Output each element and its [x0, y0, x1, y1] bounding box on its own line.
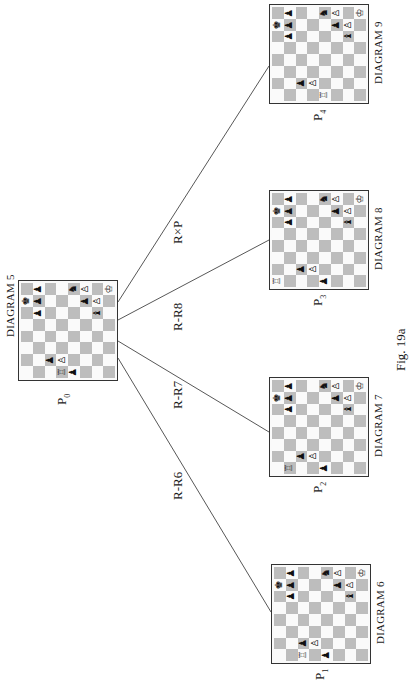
board-square: ♝ [343, 31, 355, 43]
black-pawn-icon: ♟ [287, 592, 297, 601]
board-square [333, 638, 345, 650]
board-square [309, 591, 321, 603]
diagram-label-p3: DIAGRAM 8 [372, 207, 384, 270]
board-square [68, 331, 80, 343]
board-square [296, 19, 308, 31]
node-label-p2: P2 [310, 482, 328, 493]
board-square [284, 228, 296, 240]
black-knight-icon: ♞ [320, 194, 330, 203]
black-pawn-icon: ♟ [332, 206, 342, 215]
board-square [274, 591, 286, 603]
board-square: ♙ [80, 283, 92, 295]
board-square [309, 602, 321, 614]
board-square [272, 54, 284, 66]
black-pawn-icon: ♟ [34, 308, 44, 317]
black-pawn-icon: ♟ [285, 8, 295, 17]
white-king-icon: ♔ [355, 381, 365, 390]
board-square: ♟ [33, 295, 45, 307]
white-pawn-icon: ♙ [343, 206, 353, 215]
board-square [333, 626, 345, 638]
board-square [331, 42, 343, 54]
board-square [296, 89, 308, 101]
board-square [319, 439, 331, 451]
board-square [284, 451, 296, 463]
board-square [307, 228, 319, 240]
board-square [333, 602, 345, 614]
board-square [45, 331, 57, 343]
board-square [296, 427, 308, 439]
board-square: ♟ [296, 78, 308, 90]
board-square: ♟ [319, 462, 331, 474]
board-square [331, 427, 343, 439]
board-square [272, 462, 284, 474]
board-square [331, 451, 343, 463]
board-square [272, 404, 284, 416]
board-square [45, 319, 57, 331]
board-square [45, 366, 57, 378]
move-label-r-r6: R-R6 [170, 472, 186, 500]
board-square [309, 626, 321, 638]
board-square: ♟ [284, 19, 296, 31]
board-square: ♚ [272, 19, 284, 31]
board-square: ♔ [354, 193, 366, 205]
board-square [284, 78, 296, 90]
black-pawn-icon: ♟ [287, 568, 297, 577]
board-square [307, 42, 319, 54]
board-square: ♟ [284, 404, 296, 416]
board-square: ♖ [56, 366, 68, 378]
board-square [274, 602, 286, 614]
board-square [68, 295, 80, 307]
black-pawn-icon: ♟ [296, 452, 306, 461]
board-grid: ♟♞♙♔♚♟♟♙♟♝♟♙♖ [272, 7, 366, 101]
board-square [21, 354, 33, 366]
board-square [21, 307, 33, 319]
board-square [343, 427, 355, 439]
board-square [331, 264, 343, 276]
board-square [68, 354, 80, 366]
board-square [356, 614, 368, 626]
black-pawn-icon: ♟ [34, 284, 44, 293]
white-pawn-icon: ♙ [308, 265, 318, 274]
board-square [319, 78, 331, 90]
board-square [284, 427, 296, 439]
board-square [272, 193, 284, 205]
board-square [296, 42, 308, 54]
black-bishop-icon: ♝ [343, 405, 353, 414]
board-square [272, 415, 284, 427]
board-square [331, 439, 343, 451]
board-square [103, 342, 115, 354]
board-square [319, 54, 331, 66]
board-square [274, 626, 286, 638]
board-square [343, 439, 355, 451]
board-square [331, 54, 343, 66]
board-square [296, 7, 308, 19]
board-square [298, 614, 310, 626]
board-square: ♟ [331, 19, 343, 31]
black-king-icon: ♚ [275, 580, 285, 589]
black-pawn-icon: ♟ [285, 194, 295, 203]
board-square: ♟ [284, 7, 296, 19]
board-square [343, 89, 355, 101]
board-square [343, 193, 355, 205]
black-bishop-icon: ♝ [345, 592, 355, 601]
board-square: ♟ [286, 579, 298, 591]
white-pawn-icon: ♙ [334, 568, 344, 577]
board-square [345, 602, 357, 614]
board-square [272, 240, 284, 252]
board-square [284, 240, 296, 252]
board-square [56, 283, 68, 295]
white-rook-icon: ♖ [273, 277, 283, 286]
board-square [296, 205, 308, 217]
board-square [68, 319, 80, 331]
board-square [296, 380, 308, 392]
board-square [307, 240, 319, 252]
board-square [272, 31, 284, 43]
board-square [92, 354, 104, 366]
black-pawn-icon: ♟ [320, 464, 330, 473]
board-square: ♙ [345, 579, 357, 591]
board-square [45, 342, 57, 354]
black-pawn-icon: ♟ [296, 79, 306, 88]
board-square [345, 638, 357, 650]
diagram-label-p2: DIAGRAM 7 [372, 394, 384, 457]
board-square [307, 31, 319, 43]
